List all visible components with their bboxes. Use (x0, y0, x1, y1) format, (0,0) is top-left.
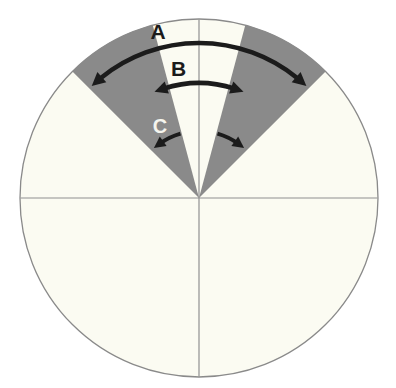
label-b: B (171, 57, 186, 80)
sector-angle-diagram: A B C (0, 0, 396, 388)
label-c: C (153, 115, 167, 137)
figure-canvas: A B C (0, 0, 396, 388)
label-a: A (150, 20, 165, 43)
